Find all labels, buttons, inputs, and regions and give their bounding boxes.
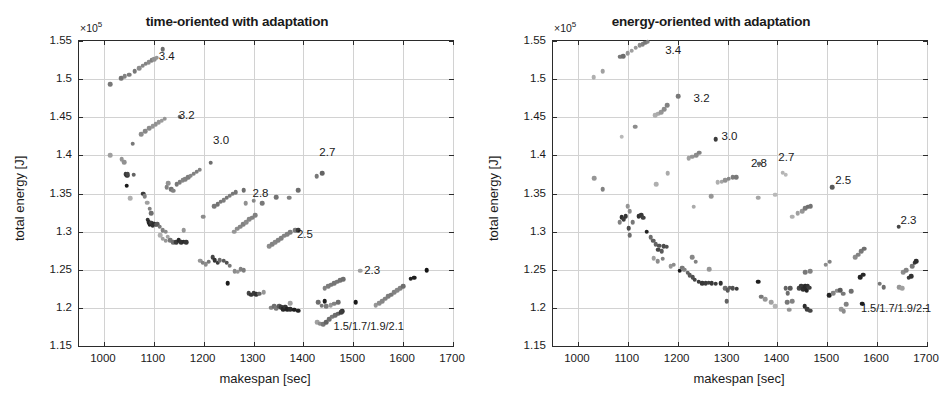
y-tick-label: 1.35: [500, 187, 546, 199]
data-point: [654, 182, 659, 187]
gridline-horizontal: [79, 117, 453, 118]
data-point: [162, 116, 167, 121]
data-point: [718, 281, 723, 286]
data-point: [914, 259, 919, 264]
data-point: [785, 300, 790, 305]
data-point: [773, 192, 778, 197]
data-point: [655, 259, 660, 264]
data-point: [208, 160, 213, 165]
annotation-label: 1.5/1.7/1.9/2.1: [861, 302, 931, 314]
gridline-horizontal: [79, 232, 453, 233]
data-point: [827, 259, 832, 264]
data-point: [315, 174, 320, 179]
data-point: [807, 285, 812, 290]
x-axis-tick: [628, 40, 629, 45]
annotation-label: 3.4: [159, 50, 175, 62]
y-axis-tick: [78, 308, 83, 309]
data-point: [128, 196, 133, 201]
gridline-horizontal: [79, 155, 453, 156]
y-axis-tick: [78, 117, 83, 118]
data-point: [145, 200, 150, 205]
data-point: [108, 153, 113, 158]
x-axis-tick: [303, 342, 304, 347]
y-tick-label: 1.45: [26, 110, 72, 122]
data-point: [243, 201, 248, 206]
y-axis-tick: [449, 346, 454, 347]
annotation-label: 3.2: [179, 109, 195, 121]
x-axis-tick: [777, 342, 778, 347]
x-axis-tick: [678, 342, 679, 347]
x-tick-label: 1600: [389, 352, 415, 364]
x-axis-tick: [104, 40, 105, 45]
data-point: [690, 255, 695, 260]
data-point: [126, 172, 131, 177]
data-point: [787, 307, 792, 312]
data-point: [287, 195, 292, 200]
data-point: [233, 190, 238, 195]
data-point: [125, 184, 130, 189]
y-axis-tick: [552, 117, 557, 118]
data-point: [253, 213, 258, 218]
y-axis-tick: [552, 155, 557, 156]
y-axis-tick: [923, 270, 928, 271]
y-axis-tick: [449, 308, 454, 309]
data-point: [734, 175, 739, 180]
data-point: [707, 267, 712, 272]
y-axis-exponent-base: ×10: [554, 22, 572, 34]
x-tick-label: 1500: [339, 352, 365, 364]
annotation-label: 2.8: [751, 157, 767, 169]
data-point: [320, 171, 325, 176]
data-point: [734, 287, 739, 292]
y-axis-tick: [552, 346, 557, 347]
data-point: [424, 268, 429, 273]
y-axis-tick: [449, 232, 454, 233]
y-axis-tick: [923, 232, 928, 233]
data-point: [206, 259, 211, 264]
y-axis-tick: [449, 117, 454, 118]
y-axis-tick: [552, 79, 557, 80]
data-point: [691, 205, 696, 210]
y-tick-label: 1.5: [500, 72, 546, 84]
x-tick-label: 1300: [240, 352, 266, 364]
data-point: [358, 269, 363, 274]
x-axis-tick: [254, 40, 255, 45]
y-axis-tick: [923, 117, 928, 118]
data-point: [724, 299, 729, 304]
y-tick-label: 1.55: [26, 34, 72, 46]
data-point: [790, 299, 795, 304]
x-tick-label: 1200: [190, 352, 216, 364]
y-axis-tick: [552, 270, 557, 271]
x-tick-label: 1700: [913, 352, 939, 364]
data-point: [108, 82, 113, 87]
x-axis-tick: [204, 40, 205, 45]
data-point: [841, 309, 846, 314]
y-axis-tick: [78, 194, 83, 195]
data-point: [143, 194, 148, 199]
data-point: [786, 291, 791, 296]
y-tick-label: 1.35: [26, 187, 72, 199]
data-point: [841, 291, 846, 296]
data-point: [630, 220, 635, 225]
x-axis-tick: [877, 342, 878, 347]
annotation-label: 3.2: [694, 92, 710, 104]
x-axis-tick: [827, 342, 828, 347]
x-tick-label: 1400: [290, 352, 316, 364]
annotation-label: 3.0: [722, 130, 738, 142]
y-axis-tick: [923, 194, 928, 195]
annotation-label: 3.0: [213, 134, 229, 146]
data-point: [900, 286, 905, 291]
data-point: [697, 150, 702, 155]
data-point: [909, 274, 914, 279]
annotation-label: 2.5: [297, 228, 313, 240]
annotation-label: 2.8: [253, 187, 269, 199]
y-axis-tick: [923, 346, 928, 347]
annotation-label: 1.5/1.7/1.9/2.1: [334, 320, 404, 332]
data-point: [693, 259, 698, 264]
data-point: [184, 240, 189, 245]
y-tick-label: 1.15: [26, 339, 72, 351]
data-point: [788, 286, 793, 291]
y-axis-exponent-power: 5: [98, 20, 102, 29]
x-axis-tick: [827, 40, 828, 45]
data-point: [659, 249, 664, 254]
gridline-horizontal: [79, 308, 453, 309]
